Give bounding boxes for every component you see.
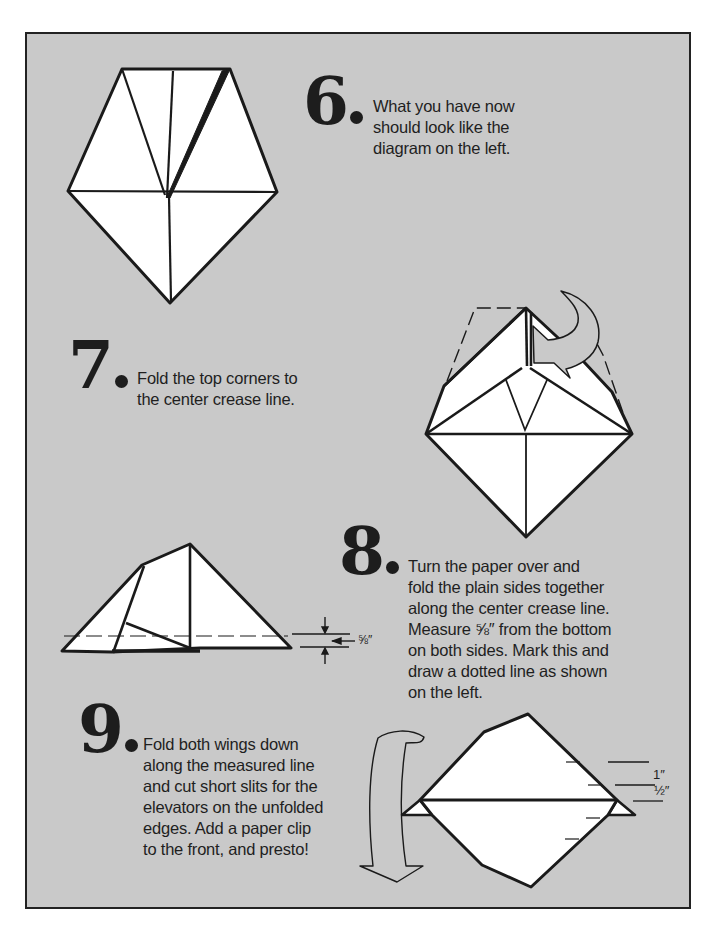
step-line: on the left. xyxy=(408,682,611,703)
step-line: elevators on the unfolded xyxy=(143,797,323,818)
step-line: diagram on the left. xyxy=(373,138,515,159)
step-6-text: What you have now should look like the d… xyxy=(373,96,515,159)
step-line: to the front, and presto! xyxy=(143,839,323,860)
step-line: Turn the paper over and xyxy=(408,556,611,577)
measurement-label-half-inch: ½″ xyxy=(654,783,669,798)
step-number-text: 7 xyxy=(68,326,112,404)
step-line: draw a dotted line as shown xyxy=(408,661,611,682)
step-line: What you have now xyxy=(373,96,515,117)
step-line: fold the plain sides together xyxy=(408,577,611,598)
number-dot xyxy=(386,561,399,574)
instruction-page-frame xyxy=(25,32,691,909)
number-dot xyxy=(350,111,363,124)
step-line: the center crease line. xyxy=(137,389,298,410)
step-9-number: 9 xyxy=(78,696,138,762)
step-7-number: 7 xyxy=(68,332,128,398)
step-line: along the measured line xyxy=(143,755,323,776)
step-number-text: 8 xyxy=(339,512,383,590)
step-line: and cut short slits for the xyxy=(143,776,323,797)
step-8-number: 8 xyxy=(339,518,399,584)
step-7-text: Fold the top corners to the center creas… xyxy=(137,368,298,410)
step-line: Fold both wings down xyxy=(143,734,323,755)
step-line: Measure ⅝″ from the bottom xyxy=(408,619,611,640)
step-line: should look like the xyxy=(373,117,515,138)
step-number-text: 6 xyxy=(303,62,347,140)
step-line: on both sides. Mark this and xyxy=(408,640,611,661)
measurement-label-5-8: ⅝″ xyxy=(358,633,372,647)
step-line: edges. Add a paper clip xyxy=(143,818,323,839)
measurement-label-1-inch: 1″ xyxy=(653,767,665,782)
number-dot xyxy=(115,375,128,388)
step-line: along the center crease line. xyxy=(408,598,611,619)
step-9-text: Fold both wings down along the measured … xyxy=(143,734,323,860)
number-dot xyxy=(125,739,138,752)
step-6-number: 6 xyxy=(303,68,363,134)
step-line: Fold the top corners to xyxy=(137,368,298,389)
step-8-text: Turn the paper over and fold the plain s… xyxy=(408,556,611,703)
step-number-text: 9 xyxy=(78,690,122,768)
